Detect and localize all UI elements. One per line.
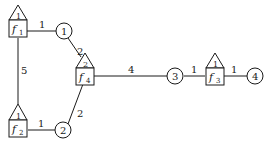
edge-label: 1: [39, 19, 45, 30]
factor-graph: 1 2 5 1 2 4 1 1 1 f 1 1 f 2 2 f 4 1 f 3: [0, 0, 269, 147]
factor-f3: 1 f 3: [206, 53, 224, 85]
edge-label: 1: [231, 64, 237, 75]
factor-sub: 1: [19, 29, 23, 37]
variable-1: 1: [56, 23, 72, 39]
variable-3: 3: [167, 68, 183, 84]
edge-label: 1: [38, 118, 44, 129]
edge-labels: 1 2 5 1 2 4 1 1: [21, 19, 237, 129]
edge-label: 2: [77, 108, 83, 119]
edge-label: 2: [77, 46, 83, 57]
edge-label: 1: [191, 64, 197, 75]
variable-label: 1: [61, 26, 67, 37]
edge-label: 4: [128, 64, 134, 75]
variable-4: 4: [247, 68, 263, 84]
variable-label: 2: [60, 125, 66, 136]
factor-sub: 4: [86, 77, 91, 85]
variable-label: 4: [252, 71, 258, 82]
edge-label: 5: [21, 65, 27, 76]
factor-f1: 1 f 1: [9, 5, 27, 37]
variable-2: 2: [55, 122, 71, 138]
variable-label: 3: [172, 71, 178, 82]
factor-f4: 2 f 4: [76, 53, 94, 85]
factor-f2: 1 f 2: [9, 104, 27, 137]
factor-sub: 3: [216, 77, 220, 85]
factor-sub: 2: [19, 129, 23, 137]
